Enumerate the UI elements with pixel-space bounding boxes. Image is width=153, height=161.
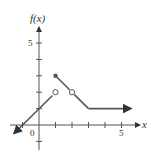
closed-point-1-3	[53, 74, 57, 78]
origin-label: 0	[30, 128, 35, 138]
open-point-2-2	[69, 90, 74, 95]
x-axis-label: x	[141, 118, 147, 130]
x-tick-label-5: 5	[119, 128, 124, 138]
y-tick-label-5: 5	[28, 38, 33, 48]
y-axis-label: f(x)	[30, 12, 46, 25]
piece-2-line	[56, 76, 70, 90]
piece-2-line-b	[74, 95, 88, 109]
function-graph: f(x) x 0 5 5	[0, 0, 153, 161]
open-point-1-2	[53, 90, 58, 95]
